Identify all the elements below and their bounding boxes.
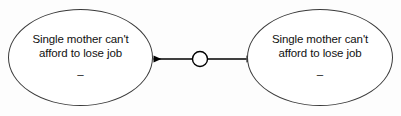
node-right-line-1: Single mother can't [272,33,368,47]
node-left-dash-mark: – [77,68,83,82]
diagram-canvas: Single mother can't afford to lose job –… [0,0,401,116]
edge-connector[interactable] [150,44,250,74]
node-left-mark-wrap: – [9,60,152,82]
node-left-line-2: afford to lose job [39,47,122,61]
node-left-text-block: Single mother can't afford to lose job [32,33,128,60]
ellipse-node-right[interactable]: Single mother can't afford to lose job – [247,9,393,106]
node-right-line-2: afford to lose job [278,47,361,61]
ellipse-node-left[interactable]: Single mother can't afford to lose job – [8,9,153,106]
node-right-mark-wrap: – [248,60,392,82]
node-right-dash-mark: – [317,68,323,82]
node-left-line-1: Single mother can't [32,33,128,47]
node-right-text-block: Single mother can't afford to lose job [272,33,368,60]
edge-midpoint-circle-icon[interactable] [193,52,208,67]
